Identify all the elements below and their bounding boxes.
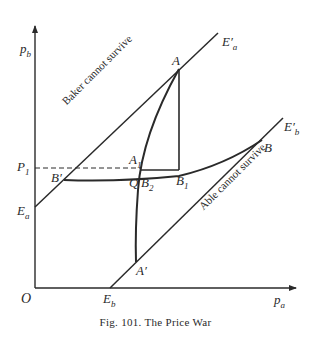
point-eb-label: Eb (103, 292, 115, 309)
origin-label: O (21, 292, 31, 306)
point-a-prime-label: A′ (136, 264, 147, 277)
point-q-label: Q (129, 176, 138, 189)
point-b-prime-label: B′ (51, 171, 62, 184)
price-war-diagram (0, 0, 311, 339)
point-ea-label: Ea (17, 204, 29, 221)
point-b2-label: B2 (141, 176, 153, 193)
curve-a-to-a-prime (136, 69, 179, 262)
point-ea-prime-label: E′a (222, 35, 237, 52)
figure-caption: Fig. 101. The Price War (0, 316, 311, 328)
point-a-label: A (172, 54, 180, 67)
line-ea (35, 33, 218, 207)
p1-label: P1 (17, 160, 29, 177)
y-axis-label: pb (20, 42, 31, 59)
point-a1-label: A1 (129, 153, 141, 170)
point-b1-label: B1 (176, 174, 188, 191)
x-axis-label: pa (274, 293, 285, 310)
point-eb-prime-label: E′b (284, 120, 299, 137)
